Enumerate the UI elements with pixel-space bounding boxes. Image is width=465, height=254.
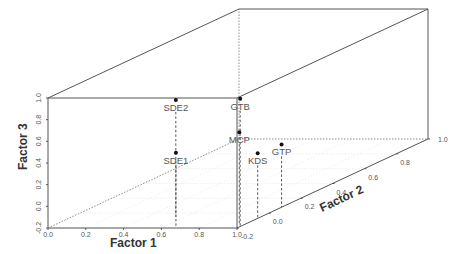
y-tick-label: 0.2 [305, 203, 315, 210]
axis-ticks: 0.00.20.40.60.81.0-0.20.00.20.40.60.81.0… [35, 93, 448, 240]
floor-grid [48, 139, 428, 228]
point-label: SDE1 [164, 155, 189, 166]
x-axis-label: Factor 1 [110, 236, 157, 250]
z-tick-label: 1.0 [35, 93, 42, 103]
z-tick-label: -0.2 [35, 222, 42, 234]
x-tick-label: 0.6 [157, 231, 167, 238]
y-tick-label: 0.0 [273, 218, 283, 225]
grid-line [86, 139, 277, 228]
point-label: SDE2 [163, 102, 188, 113]
z-axis-label: Factor 3 [16, 123, 30, 170]
y-tick-label: 0.6 [368, 174, 378, 181]
point-label: GTP [272, 146, 292, 157]
scatter3d-chart: 0.00.20.40.60.81.0-0.20.00.20.40.60.81.0… [0, 0, 465, 254]
x-tick-label: 0.0 [43, 231, 53, 238]
y-tick-label: 1.0 [438, 136, 448, 143]
z-tick-label: 0.2 [35, 180, 42, 190]
point-label: KDS [248, 155, 268, 166]
box-edge [237, 9, 428, 98]
point-label: GTB [230, 101, 250, 112]
data-points: SDE2SDE1GTBMCPKDSGTP [163, 97, 291, 167]
z-tick-label: 0.6 [35, 136, 42, 146]
point-label: MCP [229, 134, 250, 145]
z-tick-label: 0.4 [35, 158, 42, 168]
x-tick-label: 0.8 [194, 231, 204, 238]
y-tick-label: 0.8 [400, 159, 410, 166]
y-tick-label: -0.2 [241, 233, 253, 240]
z-tick-label: 0.8 [35, 115, 42, 125]
x-tick-label: 0.2 [81, 231, 91, 238]
z-tick-label: 0.0 [35, 201, 42, 211]
box-edge [48, 9, 239, 98]
plot-box [48, 9, 428, 228]
